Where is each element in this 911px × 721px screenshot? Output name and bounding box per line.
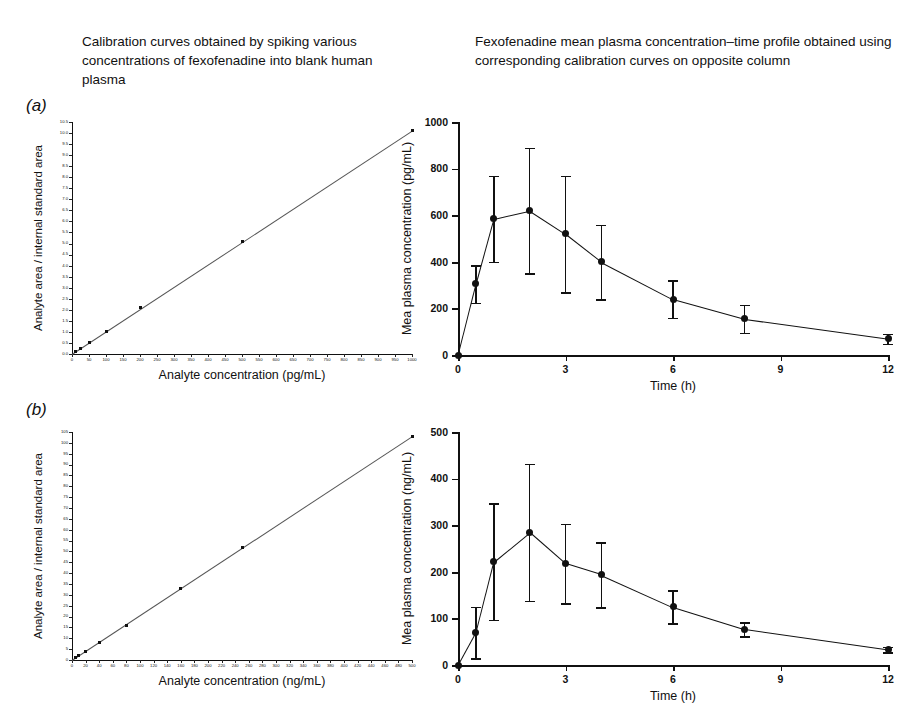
data-point	[241, 240, 244, 243]
line-segment	[458, 633, 477, 666]
y-axis-tick	[452, 479, 458, 481]
line-segment	[529, 211, 565, 235]
error-bar-cap-lower	[525, 601, 535, 603]
x-axis-tick-label: 600	[267, 358, 285, 362]
x-axis-tick-label: 250	[148, 358, 166, 362]
y-axis-tick	[69, 232, 72, 233]
x-axis-tick-label: 350	[182, 358, 200, 362]
y-axis-tick-label: 8.5	[52, 164, 68, 168]
line-segment	[601, 262, 673, 300]
x-axis-tick-label: 450	[216, 358, 234, 362]
y-axis-tick	[69, 432, 72, 433]
error-bar-cap-lower	[668, 623, 678, 625]
error-bar-cap-upper	[471, 607, 481, 609]
y-axis-tick-label: 70	[52, 506, 68, 510]
column-heading-right: Fexofenadine mean plasma concentration–t…	[475, 32, 895, 70]
y-axis-tick-label: 0	[52, 658, 68, 662]
y-axis-tick-label: 4.5	[52, 252, 68, 256]
line-segment	[601, 575, 673, 608]
y-axis-tick-label: 95	[52, 452, 68, 456]
y-axis-line	[72, 432, 73, 660]
y-axis-tick	[69, 443, 72, 444]
y-axis-tick	[69, 595, 72, 596]
x-axis-label: Analyte concentration (pg/mL)	[72, 368, 412, 382]
y-axis-tick-label: 3.5	[52, 275, 68, 279]
error-bar-cap-lower	[668, 318, 678, 320]
data-point	[885, 335, 892, 342]
y-axis-tick-label: 30	[52, 593, 68, 597]
y-axis-tick-label: 10	[52, 636, 68, 640]
y-axis-tick-label: 45	[52, 560, 68, 564]
y-axis-label: Analyte area / internal standard area	[32, 432, 44, 660]
y-axis-tick	[69, 638, 72, 639]
x-axis-tick-label: 100	[97, 358, 115, 362]
line-segment	[673, 607, 745, 630]
x-axis-tick-label: 3	[552, 674, 580, 685]
y-axis-tick	[69, 122, 72, 123]
y-axis-label: Mea plasma concentration (ng/mL)	[400, 432, 414, 665]
y-axis-tick	[69, 465, 72, 466]
y-axis-tick	[69, 288, 72, 289]
y-axis-tick	[69, 144, 72, 145]
y-axis-tick	[452, 525, 458, 527]
y-axis-tick	[69, 627, 72, 628]
y-axis-tick	[69, 133, 72, 134]
regression-line	[72, 436, 413, 660]
x-axis-tick-label: 850	[352, 358, 370, 362]
y-axis-tick-label: 85	[52, 473, 68, 477]
y-axis-tick-label: 9.0	[52, 153, 68, 157]
line-segment	[458, 284, 477, 355]
y-axis-tick-label: 60	[52, 528, 68, 532]
y-axis-tick-label: 35	[52, 582, 68, 586]
error-bar-cap-upper	[525, 464, 535, 466]
data-point	[77, 654, 80, 657]
data-point	[125, 624, 128, 627]
x-axis-tick	[888, 355, 890, 361]
x-axis-tick	[673, 355, 675, 361]
chart-pk-a: 02004006008001000036912Time (h)Mea plasm…	[458, 122, 888, 355]
error-bar-cap-lower	[561, 292, 571, 294]
error-bar-cap-upper	[525, 148, 535, 150]
data-point	[84, 650, 87, 653]
y-axis-tick-label: 40	[52, 571, 68, 575]
y-axis-tick-label: 55	[52, 538, 68, 542]
y-axis-line	[458, 122, 460, 355]
x-axis-line	[72, 660, 412, 661]
error-bar-cap-upper	[740, 622, 750, 624]
y-axis-line	[458, 432, 460, 665]
y-axis-tick-label: 6.5	[52, 208, 68, 212]
y-axis-tick	[452, 308, 458, 310]
y-axis-tick-label: 90	[52, 462, 68, 466]
x-axis-tick	[566, 665, 568, 671]
chart-pk-b: 0100200300400500036912Time (h)Mea plasma…	[458, 432, 888, 665]
x-axis-tick	[781, 355, 783, 361]
y-axis-tick-label: 500	[414, 427, 448, 438]
y-axis-tick-label: 9.5	[52, 142, 68, 146]
error-bar-cap-upper	[489, 176, 499, 178]
line-segment	[565, 234, 601, 263]
x-axis-tick-label: 950	[386, 358, 404, 362]
data-point	[79, 347, 82, 350]
chart-calibration-a: 0.00.51.01.52.02.53.03.54.04.55.05.56.06…	[72, 122, 412, 354]
column-heading-left: Calibration curves obtained by spiking v…	[82, 32, 412, 89]
error-bar-cap-upper	[561, 176, 571, 178]
y-axis-tick-label: 75	[52, 495, 68, 499]
y-axis-tick	[69, 617, 72, 618]
x-axis-tick-label: 800	[335, 358, 353, 362]
y-axis-tick-label: 105	[52, 430, 68, 434]
y-axis-tick	[69, 199, 72, 200]
y-axis-tick	[69, 519, 72, 520]
error-bar-cap-lower	[471, 658, 481, 660]
error-bar-cap-upper	[561, 524, 571, 526]
y-axis-tick-label: 4.0	[52, 264, 68, 268]
x-axis-tick-label: 0	[444, 364, 472, 375]
chart-calibration-b: 0510152025303540455055606570758085909510…	[72, 432, 412, 660]
data-point	[885, 646, 892, 653]
line-segment	[673, 299, 745, 320]
data-point	[98, 641, 101, 644]
data-point	[472, 280, 479, 287]
y-axis-tick	[69, 277, 72, 278]
x-axis-tick-label: 750	[318, 358, 336, 362]
y-axis-label: Analyte area / internal standard area	[32, 122, 44, 354]
error-bar-cap-lower	[883, 344, 893, 346]
